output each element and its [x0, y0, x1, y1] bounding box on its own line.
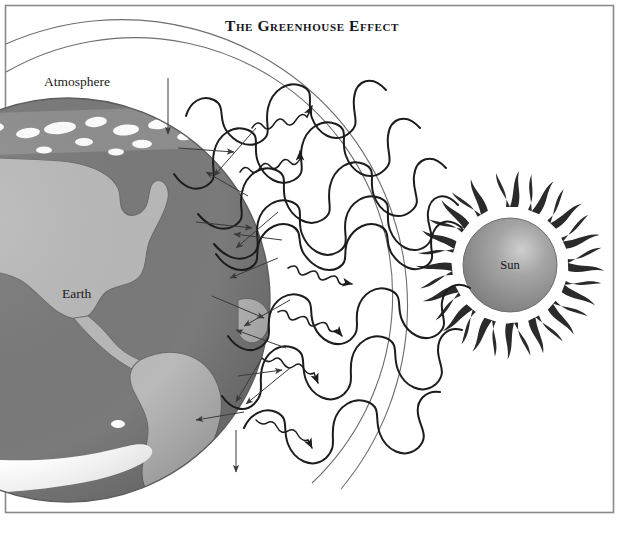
- atmosphere-label: Atmosphere: [44, 74, 110, 89]
- greenhouse-effect-figure: Atmosphere Earth: [0, 0, 624, 533]
- page-title: The Greenhouse Effect: [225, 17, 399, 34]
- sun-label: Sun: [500, 258, 520, 272]
- earth-label: Earth: [62, 286, 91, 301]
